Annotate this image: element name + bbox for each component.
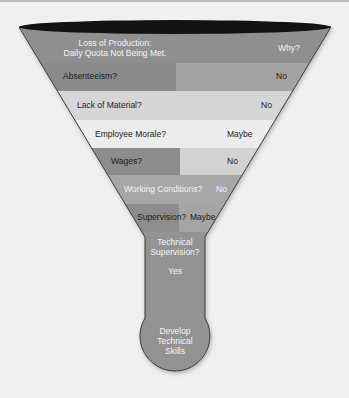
outcome-line1: Develop	[135, 326, 215, 336]
neck-line1: Technical	[135, 237, 215, 247]
row-question: Employee Morale?	[95, 129, 166, 139]
row-answer: No	[227, 156, 238, 166]
title-line1: Loss of Production:	[40, 38, 190, 48]
outcome-line3: Skills	[135, 346, 215, 356]
band-material	[0, 91, 349, 120]
funnel-rim	[19, 20, 331, 34]
neck-line2: Supervision?	[135, 247, 215, 257]
band-morale	[0, 120, 349, 148]
row-question: Supervision?	[137, 212, 186, 222]
neck-answer: Yes	[135, 266, 215, 276]
row-answer: Maybe	[190, 212, 216, 222]
title-line2: Daily Quota Not Being Met.	[40, 48, 190, 58]
row-question: Absenteeism?	[63, 71, 117, 81]
row-answer: Maybe	[227, 129, 253, 139]
row-answer: No	[276, 71, 287, 81]
band-wages	[0, 148, 180, 175]
row-question: Wages?	[111, 156, 142, 166]
row-answer: No	[216, 184, 227, 194]
row-question: Working Conditions?	[124, 184, 202, 194]
row-question: Lack of Material?	[77, 100, 142, 110]
title-answer: Why?	[278, 43, 300, 53]
outcome-line2: Technical	[135, 336, 215, 346]
row-answer: No	[261, 100, 272, 110]
